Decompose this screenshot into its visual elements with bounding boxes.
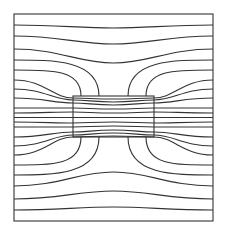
field-line-end bbox=[14, 60, 99, 96]
field-line-end bbox=[146, 137, 213, 165]
field-line-end bbox=[14, 137, 81, 165]
field-line-pass bbox=[14, 25, 213, 28]
diagram-svg bbox=[0, 0, 225, 235]
field-line-end bbox=[128, 137, 213, 175]
field-line-end bbox=[14, 137, 99, 175]
field-line-through bbox=[14, 126, 213, 127]
field-line-through bbox=[14, 122, 213, 123]
field-lines bbox=[14, 25, 213, 210]
field-line-through bbox=[14, 112, 213, 113]
field-line-pass bbox=[14, 207, 213, 210]
field-line-pass bbox=[14, 36, 213, 44]
field-line-end bbox=[128, 60, 213, 96]
field-line-diagram bbox=[0, 0, 225, 235]
field-line-end bbox=[14, 70, 81, 96]
field-line-through bbox=[14, 136, 213, 155]
field-line-through bbox=[14, 108, 213, 109]
field-line-end bbox=[146, 70, 213, 96]
field-line-pass bbox=[14, 191, 213, 199]
